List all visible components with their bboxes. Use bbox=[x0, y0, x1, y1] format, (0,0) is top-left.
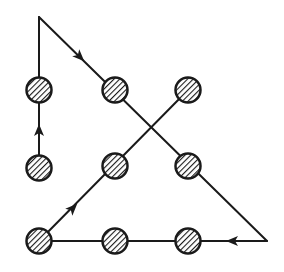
dot-r2-c1 bbox=[27, 156, 52, 181]
dot-r2-c2 bbox=[103, 154, 128, 179]
direction-arrows bbox=[34, 49, 238, 246]
dot-r3-c2 bbox=[103, 229, 128, 254]
dot-r3-c1 bbox=[27, 229, 52, 254]
nine-dots-diagram bbox=[0, 0, 284, 272]
dot-r3-c3 bbox=[176, 229, 201, 254]
dot-r1-c2 bbox=[103, 78, 128, 103]
dot-r1-c3 bbox=[176, 78, 201, 103]
diagram-canvas bbox=[0, 0, 284, 272]
dot-r1-c1 bbox=[27, 78, 52, 103]
dot-r2-c3 bbox=[176, 154, 201, 179]
